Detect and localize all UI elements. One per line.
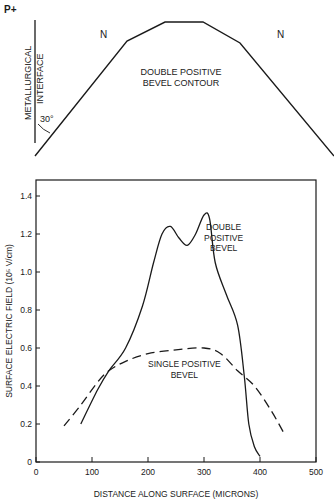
curve-annotation-label: BEVEL — [210, 243, 238, 253]
n-region-right: N — [277, 29, 284, 40]
angle-label: 30° — [40, 114, 54, 124]
x-tick-label: 500 — [309, 467, 323, 477]
interface-label-line1: METALLURGICAL — [23, 46, 33, 120]
contour-label-line2: BEVEL CONTOUR — [143, 78, 220, 88]
y-tick-label: 1.0 — [20, 267, 32, 277]
n-region-left: N — [100, 29, 107, 40]
x-tick-label: 400 — [253, 467, 267, 477]
figure: P+ METALLURGICAL INTERFACE 30° N N DOUBL… — [0, 0, 334, 504]
curve-annotation-label: DOUBLE — [206, 222, 241, 232]
x-tick-label: 300 — [197, 467, 211, 477]
bevel-contour — [35, 22, 334, 156]
y-axis-label: SURFACE ELECTRIC FIELD (10⁵ V/cm) — [4, 244, 14, 398]
field-chart: 00.20.40.60.81.01.21.4 0100200300400500 … — [4, 180, 323, 499]
interface-label-line2: INTERFACE — [35, 53, 45, 104]
y-axis-ticks: 00.20.40.60.81.01.21.4 — [20, 191, 40, 467]
angle-arc-icon — [38, 124, 50, 133]
plot-frame — [36, 180, 316, 462]
x-axis-label: DISTANCE ALONG SURFACE (MICRONS) — [94, 489, 259, 499]
x-tick-label: 100 — [85, 467, 99, 477]
y-tick-label: 1.2 — [20, 229, 32, 239]
y-tick-label: 0.6 — [20, 343, 32, 353]
curve-annotation-label: SINGLE POSITIVE — [148, 359, 221, 369]
x-tick-label: 200 — [141, 467, 155, 477]
y-tick-label: 1.4 — [20, 191, 32, 201]
x-tick-label: 0 — [34, 467, 39, 477]
contour-label-line1: DOUBLE POSITIVE — [140, 67, 221, 77]
x-axis-ticks: 0100200300400500 — [34, 457, 324, 477]
y-tick-label: 0 — [27, 457, 32, 467]
p-plus-label: P+ — [4, 4, 17, 15]
y-tick-label: 0.8 — [20, 305, 32, 315]
y-tick-label: 0.4 — [20, 381, 32, 391]
curve-annotation-label: POSITIVE — [204, 233, 244, 243]
y-tick-label: 0.2 — [20, 419, 32, 429]
bevel-diagram: P+ METALLURGICAL INTERFACE 30° N N DOUBL… — [4, 4, 334, 156]
curve-annotation-label: BEVEL — [171, 370, 199, 380]
